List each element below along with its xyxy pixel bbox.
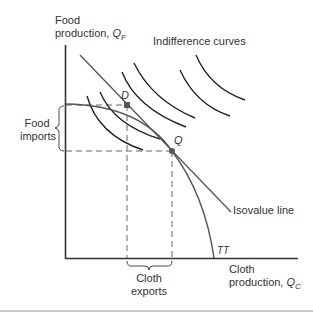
point-q-label: Q: [174, 134, 183, 147]
isovalue-line: [80, 55, 231, 212]
food-imports-label: Food imports: [20, 117, 54, 143]
point-d-label: D: [121, 89, 129, 102]
y-axis-label: Food production, QF: [55, 14, 126, 44]
indifference-curves: [87, 55, 245, 150]
food-imports-brace: [55, 106, 64, 151]
cloth-exports-label: Cloth exports: [126, 272, 172, 298]
ppf-label: TT: [217, 244, 229, 257]
point-q-marker: [169, 148, 175, 154]
point-d-marker: [124, 102, 130, 108]
cloth-exports-brace: [127, 261, 172, 270]
ppf-curve-tt: [66, 104, 214, 258]
isovalue-line-label: Isovalue line: [233, 204, 294, 217]
x-axis-label: Cloth production, QC: [229, 263, 301, 293]
indifference-curves-label: Indifference curves: [153, 35, 246, 48]
dashed-guides: [66, 105, 172, 258]
